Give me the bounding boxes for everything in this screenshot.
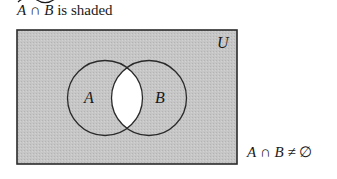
universe-label: U [217,34,229,52]
set-a-label: A [84,89,94,107]
note-set-a: A [247,144,256,160]
set-b-label: B [155,89,165,107]
note-intersection-symbol: ∩ [260,144,271,160]
nonempty-intersection-note: A ∩ B ≠ ∅ [247,143,312,161]
empty-set-icon: ∅ [299,144,312,160]
note-not-equal-symbol: ≠ [287,144,295,160]
note-set-b: B [275,144,284,160]
